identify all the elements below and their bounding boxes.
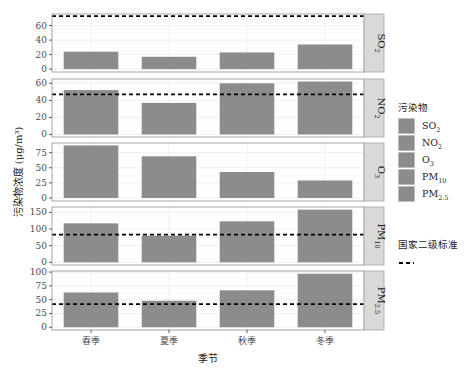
legend-key-swatch <box>398 152 415 168</box>
facet-panel-so2: SO20204060 <box>36 14 387 74</box>
bar-o3-2 <box>220 172 275 198</box>
y-tick-label: 0 <box>41 257 47 267</box>
legend-item-label: SO2 <box>422 120 440 134</box>
y-tick-label: 60 <box>36 21 48 31</box>
bar-pm25-3 <box>298 274 353 327</box>
legend-title-standard: 国家二级标准 <box>398 239 458 250</box>
legend-key-swatch <box>398 186 415 202</box>
bar-pm10-2 <box>220 221 275 262</box>
y-tick-label: 40 <box>36 95 48 105</box>
bar-no2-0 <box>64 90 119 134</box>
facet-panel-o3: O30255075 <box>36 143 387 203</box>
bar-so2-3 <box>298 44 353 69</box>
bar-so2-0 <box>64 52 119 69</box>
legend-item-label: O3 <box>422 154 434 168</box>
x-axis-title: 季节 <box>198 353 218 364</box>
legend-item-label: NO2 <box>422 137 442 151</box>
y-tick-label: 60 <box>36 78 48 88</box>
legend-key-swatch <box>398 118 415 134</box>
y-tick-label: 25 <box>36 308 48 318</box>
y-tick-label: 100 <box>30 267 47 277</box>
legend: 污染物SO2NO2O3PM10PM2.5国家二级标准 <box>398 102 458 263</box>
legend-key-swatch <box>398 135 415 151</box>
legend-title-pollutant: 污染物 <box>398 102 428 113</box>
y-tick-label: 20 <box>36 50 48 60</box>
y-tick-label: 40 <box>36 35 48 45</box>
y-tick-label: 0 <box>41 129 47 139</box>
bar-so2-1 <box>142 57 197 69</box>
bar-no2-3 <box>298 82 353 135</box>
y-axis-title: 污染物浓度 (μg/m³) <box>12 127 24 218</box>
bar-o3-0 <box>64 145 119 198</box>
facet-panel-pm25: PM2.50255075100 <box>30 267 387 332</box>
bar-pm10-0 <box>64 223 119 262</box>
bar-pm25-2 <box>220 290 275 327</box>
legend-item-label: PM2.5 <box>422 188 448 202</box>
y-tick-label: 25 <box>36 178 48 188</box>
bar-o3-3 <box>298 180 353 198</box>
y-tick-label: 0 <box>41 322 47 332</box>
y-tick-label: 150 <box>30 207 47 217</box>
bar-no2-2 <box>220 83 275 134</box>
facet-panel-pm10: PM10050100150 <box>30 207 387 267</box>
bar-no2-1 <box>142 103 197 135</box>
bar-o3-1 <box>142 156 197 198</box>
x-tick-label: 秋季 <box>238 335 256 346</box>
y-tick-label: 20 <box>36 112 48 122</box>
y-tick-label: 50 <box>36 295 48 305</box>
y-tick-label: 0 <box>41 193 47 203</box>
y-tick-label: 75 <box>36 281 48 291</box>
legend-key-swatch <box>398 169 415 185</box>
y-tick-label: 50 <box>36 241 48 251</box>
facet-panel-no2: NO20204060 <box>36 78 387 139</box>
faceted-bar-chart: SO20204060NO20204060O30255075PM100501001… <box>0 0 469 370</box>
x-tick-label: 夏季 <box>160 335 178 346</box>
y-tick-label: 50 <box>36 163 48 173</box>
legend-item-label: PM10 <box>422 171 446 185</box>
y-tick-label: 100 <box>30 224 47 234</box>
y-tick-label: 0 <box>41 64 47 74</box>
bar-so2-2 <box>220 52 275 69</box>
bar-pm10-1 <box>142 236 197 263</box>
y-tick-label: 75 <box>36 148 48 158</box>
bar-pm10-3 <box>298 210 353 263</box>
x-tick-label: 春季 <box>82 335 100 346</box>
bar-pm25-0 <box>64 293 119 328</box>
x-tick-label: 冬季 <box>316 335 334 346</box>
